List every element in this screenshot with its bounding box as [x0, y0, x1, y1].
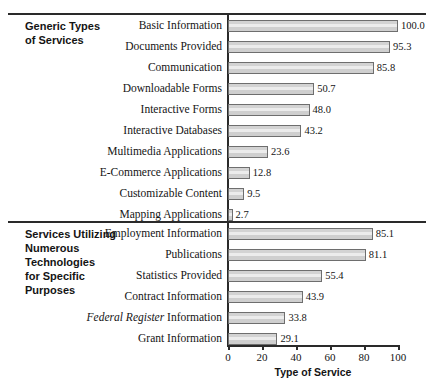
bar-row[interactable]: Mapping Applications2.7: [0, 207, 437, 228]
x-axis-tick: [296, 345, 298, 350]
bar-wrapper: 85.8: [228, 62, 374, 74]
bar[interactable]: [228, 167, 250, 179]
bar-value-label: 29.1: [280, 333, 298, 345]
bar-group-services-utilizing: Employment Information85.1Publications81…: [0, 226, 437, 352]
x-axis-title: Type of Service: [228, 366, 398, 378]
bar-wrapper: 9.5: [228, 188, 244, 200]
bar-category-label: Communication: [12, 60, 222, 74]
bar-category-label: Statistics Provided: [12, 268, 222, 282]
bar-row[interactable]: Documents Provided95.3: [0, 39, 437, 60]
bar-value-label: 23.6: [271, 146, 289, 158]
bar-value-label: 55.4: [325, 270, 343, 282]
bar-wrapper: 23.6: [228, 146, 268, 158]
bar-category-label: Basic Information: [12, 18, 222, 32]
bar-row[interactable]: E-Commerce Applications12.8: [0, 165, 437, 186]
bar-row[interactable]: Statistics Provided55.4: [0, 268, 437, 289]
bar[interactable]: [228, 146, 268, 158]
bar-row[interactable]: Communication85.8: [0, 60, 437, 81]
bar-value-label: 85.1: [376, 228, 394, 240]
bar[interactable]: [228, 125, 301, 137]
bar-row[interactable]: Basic Information100.0: [0, 18, 437, 39]
bar-row[interactable]: Federal Register Information33.8: [0, 310, 437, 331]
bar-value-label: 9.5: [247, 188, 260, 200]
bar-value-label: 33.8: [288, 312, 306, 324]
bar-wrapper: 85.1: [228, 228, 373, 240]
bar-value-label: 95.3: [393, 41, 411, 53]
bar-wrapper: 50.7: [228, 83, 314, 95]
bar-category-label: Downloadable Forms: [12, 81, 222, 95]
bar[interactable]: [228, 291, 303, 303]
bar-value-label: 100.0: [401, 20, 425, 32]
bar-wrapper: 2.7: [228, 209, 233, 221]
bar-value-label: 48.0: [313, 104, 331, 116]
bar[interactable]: [228, 20, 398, 32]
x-axis-tick-label: 80: [359, 351, 370, 364]
bar-category-label: Publications: [12, 247, 222, 261]
bar-category-label: Federal Register Information: [12, 310, 222, 324]
bar-row[interactable]: Customizable Content9.5: [0, 186, 437, 207]
bar[interactable]: [228, 104, 310, 116]
italic-title: Federal Register: [87, 311, 165, 323]
bar-row[interactable]: Contract Information43.9: [0, 289, 437, 310]
bar-value-label: 2.7: [236, 209, 249, 221]
bar[interactable]: [228, 312, 285, 324]
bar-value-label: 43.9: [306, 291, 324, 303]
bar-wrapper: 81.1: [228, 249, 366, 261]
x-axis-tick: [330, 345, 332, 350]
x-axis-tick: [262, 345, 264, 350]
bar-value-label: 81.1: [369, 249, 387, 261]
bar[interactable]: [228, 188, 244, 200]
top-horizontal-rule: [8, 13, 426, 15]
x-axis-tick-label: 20: [257, 351, 268, 364]
bar-row[interactable]: Multimedia Applications23.6: [0, 144, 437, 165]
bar[interactable]: [228, 62, 374, 74]
bar-wrapper: 55.4: [228, 270, 322, 282]
bar-value-label: 12.8: [253, 167, 271, 179]
bar-value-label: 50.7: [317, 83, 335, 95]
bar[interactable]: [228, 209, 233, 221]
bar-wrapper: 100.0: [228, 20, 398, 32]
bar[interactable]: [228, 41, 390, 53]
bar-category-label: Interactive Forms: [12, 102, 222, 116]
bar-category-label: Mapping Applications: [12, 207, 222, 221]
bar-value-label: 43.2: [304, 125, 322, 137]
bar-row[interactable]: Interactive Forms48.0: [0, 102, 437, 123]
bar-wrapper: 33.8: [228, 312, 285, 324]
x-axis-tick-label: 40: [291, 351, 302, 364]
bar-category-label: Employment Information: [12, 226, 222, 240]
x-axis-tick-label: 100: [390, 351, 407, 364]
bar-category-label: Documents Provided: [12, 39, 222, 53]
bar-row[interactable]: Publications81.1: [0, 247, 437, 268]
x-axis-tick-label: 60: [325, 351, 336, 364]
bar-row[interactable]: Downloadable Forms50.7: [0, 81, 437, 102]
bar[interactable]: [228, 83, 314, 95]
bar-row[interactable]: Grant Information29.1: [0, 331, 437, 352]
bar-wrapper: 43.2: [228, 125, 301, 137]
bar-category-label: Multimedia Applications: [12, 144, 222, 158]
bar-wrapper: 95.3: [228, 41, 390, 53]
x-axis-tick-label: 0: [225, 351, 231, 364]
bar-group-generic-types: Basic Information100.0Documents Provided…: [0, 18, 437, 228]
bar-wrapper: 12.8: [228, 167, 250, 179]
bar-category-label: Contract Information: [12, 289, 222, 303]
bar[interactable]: [228, 228, 373, 240]
bar[interactable]: [228, 249, 366, 261]
bar-wrapper: 48.0: [228, 104, 310, 116]
bar-row[interactable]: Employment Information85.1: [0, 226, 437, 247]
bar-row[interactable]: Interactive Databases43.2: [0, 123, 437, 144]
bar-category-label: Interactive Databases: [12, 123, 222, 137]
x-axis-tick: [364, 345, 366, 350]
bar-wrapper: 43.9: [228, 291, 303, 303]
bar-category-label: Customizable Content: [12, 186, 222, 200]
bar-chart-figure: Generic Typesof Services Services Utiliz…: [0, 0, 437, 384]
x-axis-line: [227, 345, 399, 347]
bar-value-label: 85.8: [377, 62, 395, 74]
x-axis-tick: [228, 345, 230, 350]
bar-category-label: E-Commerce Applications: [12, 165, 222, 179]
bar[interactable]: [228, 270, 322, 282]
x-axis-tick: [398, 345, 400, 350]
bar[interactable]: [228, 333, 277, 345]
bar-category-label: Grant Information: [12, 331, 222, 345]
bar-wrapper: 29.1: [228, 333, 277, 345]
